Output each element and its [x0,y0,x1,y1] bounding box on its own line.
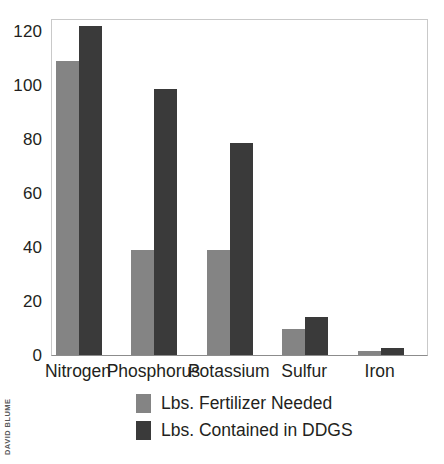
bar [154,89,177,355]
y-axis-tick-label: 120 [0,23,42,40]
legend: Lbs. Fertilizer Needed Lbs. Contained in… [136,390,436,444]
bar [56,61,79,355]
bar-chart: 020406080100120 NitrogenPhosphorusPotass… [0,0,444,464]
credit-text: DAVID BLUME [2,399,14,455]
bar [230,143,253,355]
bar [131,250,154,355]
bar [79,26,102,355]
bars-container [52,20,427,355]
bar [282,329,305,355]
y-axis-tick-label: 80 [0,131,42,148]
y-axis-tick-label: 100 [0,77,42,94]
legend-swatch-icon [136,394,151,413]
credit: DAVID BLUME [2,383,16,458]
bar [207,250,230,355]
legend-swatch-icon [136,421,151,440]
legend-item-label: Lbs. Contained in DDGS [161,421,353,440]
y-axis-tick-label: 20 [0,293,42,310]
bar [381,348,404,355]
legend-item-label: Lbs. Fertilizer Needed [161,394,332,413]
bar [358,351,381,355]
y-axis-tick-label: 60 [0,185,42,202]
x-axis-tick-label: Iron [320,360,440,382]
bar [305,317,328,355]
y-axis-tick-label: 40 [0,239,42,256]
plot-area [51,19,428,356]
legend-item: Lbs. Fertilizer Needed [136,390,436,417]
x-axis: NitrogenPhosphorusPotassiumSulfurIron [51,360,428,384]
legend-item: Lbs. Contained in DDGS [136,417,436,444]
